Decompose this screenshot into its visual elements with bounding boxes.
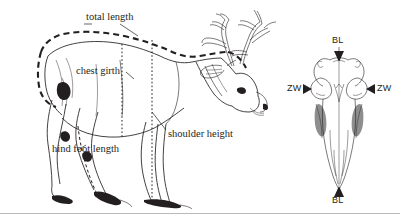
skull-cranium — [311, 58, 367, 110]
deer-skull-illustration — [0, 0, 400, 214]
skull-rostrum — [322, 99, 355, 189]
label-hind-foot-length: hind foot length — [52, 144, 119, 155]
label-skull-zw-left: ZW — [287, 84, 302, 93]
skull-bl-top-arrow — [334, 47, 344, 62]
label-chest-girth: chest girth — [76, 66, 120, 77]
label-shoulder-height: shoulder height — [168, 129, 233, 140]
label-skull-zw-right: ZW — [377, 84, 392, 93]
skull-zw-right-arrow — [366, 84, 375, 94]
label-skull-bl-top: BL — [332, 36, 344, 45]
label-total-length: total length — [86, 12, 134, 23]
skull-zw-left-arrow — [303, 84, 312, 94]
measurement-figure: total length chest girth hind foot lengt… — [0, 0, 400, 214]
label-skull-bl-bottom: BL — [332, 196, 344, 205]
